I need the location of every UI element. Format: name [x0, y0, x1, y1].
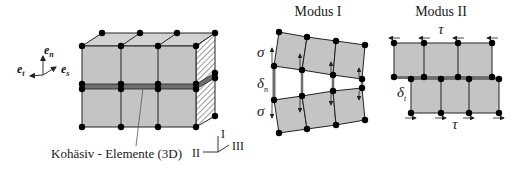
et-label: et [17, 62, 25, 78]
axis-label-II: II [192, 146, 200, 160]
axis-label-III: III [232, 139, 244, 153]
cohesive-elements-diagram: en et es Kohäsiv - Elemente (3D) [0, 0, 524, 170]
mode1-opening-diagram: σ δn σ [257, 29, 368, 136]
tau-lower-label: τ [452, 116, 458, 132]
axis-label-I: I [221, 127, 225, 141]
mode2-shear-diagram: τ δt τ [389, 21, 504, 132]
delta-n-label: δn [257, 75, 268, 94]
cohesive-layer-front [82, 84, 196, 89]
et-arrow-icon [30, 75, 43, 76]
tau-upper-label: τ [438, 21, 444, 37]
delta-t-label: δt [397, 84, 407, 103]
es-label: es [61, 62, 69, 78]
mode1-title: Modus I [294, 4, 341, 19]
es-arrow-icon [43, 67, 56, 75]
solid-block-3d [79, 30, 218, 130]
basis-vectors: en et es [17, 43, 69, 78]
sigma-upper-label: σ [257, 44, 265, 60]
sigma-lower-label: σ [257, 103, 265, 119]
cohesive-elements-caption: Kohäsiv - Elemente (3D) [51, 146, 182, 161]
mode-axes: I II III [192, 127, 244, 160]
mode2-title: Modus II [415, 4, 467, 19]
en-label: en [44, 43, 54, 59]
